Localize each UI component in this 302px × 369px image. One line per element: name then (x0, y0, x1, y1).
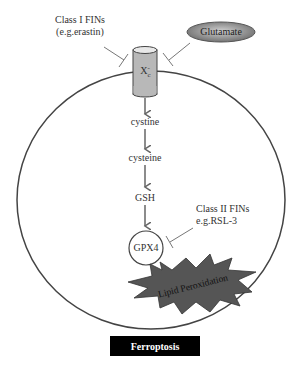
class2-fins-label: Class II FINs e.g.RSL-3 (196, 203, 249, 227)
transporter-sup: - (148, 64, 150, 72)
class2-fins-example: e.g.RSL-3 (196, 215, 249, 227)
glutamate-label: Glutamate (187, 26, 255, 38)
pathway-gsh: GSH (115, 192, 175, 204)
pathway-cysteine: cysteine (115, 152, 175, 164)
glutamate-inhibition-line (163, 43, 190, 66)
diagram-canvas (0, 0, 302, 369)
ferroptosis-title-box: Ferroptosis (110, 336, 200, 356)
class1-fins-label: Class I FINs (e.g.erastin) (40, 14, 120, 38)
transporter-sub: c (147, 71, 150, 79)
transporter-label: Xc- (133, 62, 157, 81)
pathway-cystine: cystine (115, 116, 175, 128)
class1-inhibition-line (104, 47, 128, 67)
gpx4-label: GPX4 (126, 242, 166, 254)
class1-fins-example: (e.g.erastin) (40, 26, 120, 38)
class2-fins-title: Class II FINs (196, 203, 249, 215)
class1-fins-title: Class I FINs (40, 14, 120, 26)
